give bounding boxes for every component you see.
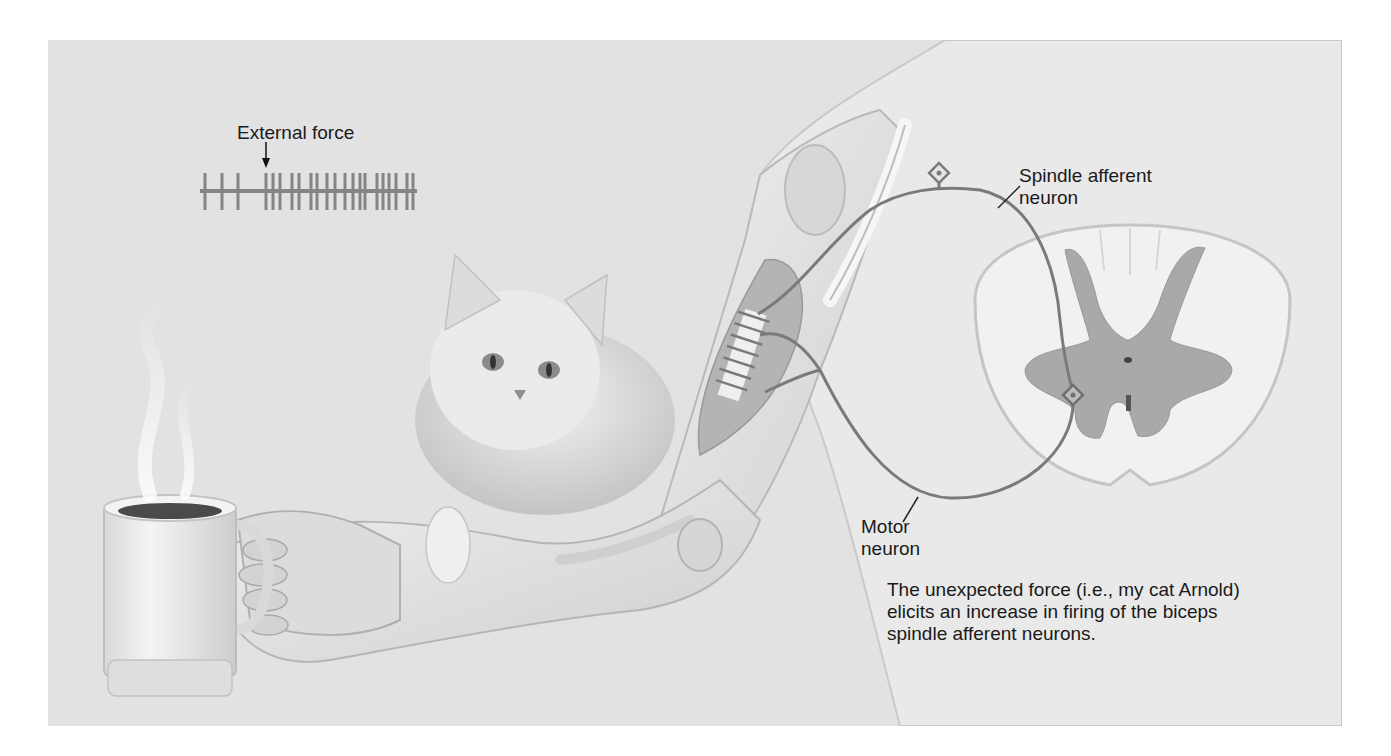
motor-neuron-label: Motor neuron (861, 516, 920, 560)
spindle-afferent-label-line1: Spindle afferent (1019, 165, 1152, 187)
external-force-label: External force (237, 122, 354, 144)
spindle-afferent-label: Spindle afferent neuron (1019, 165, 1152, 209)
spindle-afferent-label-line2: neuron (1019, 187, 1152, 209)
caption-line3: spindle afferent neurons. (887, 623, 1240, 645)
caption-line2: elicits an increase in firing of the bic… (887, 601, 1240, 623)
motor-neuron-label-line1: Motor (861, 516, 920, 538)
figure-panel: External force Spindle afferent neuron M… (48, 40, 1342, 726)
external-force-arrow-icon (262, 142, 270, 168)
caption-line1: The unexpected force (i.e., my cat Arnol… (887, 579, 1240, 601)
motor-neuron-label-line2: neuron (861, 538, 920, 560)
spike-train (200, 173, 417, 210)
figure-caption: The unexpected force (i.e., my cat Arnol… (887, 579, 1240, 645)
